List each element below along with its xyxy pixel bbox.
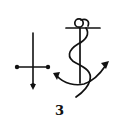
cross-icon — [15, 33, 50, 90]
anchor-icon — [53, 19, 109, 97]
figure-number: 3 — [0, 103, 115, 119]
